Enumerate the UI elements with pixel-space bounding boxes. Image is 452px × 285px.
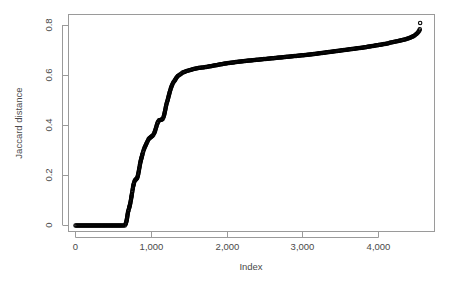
x-tick-label-1000: 1,000 bbox=[140, 241, 164, 252]
x-tick-label-0: 0 bbox=[73, 241, 78, 252]
y-tick-label-0: 0 bbox=[43, 222, 54, 227]
x-axis-title: Index bbox=[239, 261, 262, 272]
x-tick-label-3000: 3,000 bbox=[291, 241, 315, 252]
x-tick-label-2000: 2,000 bbox=[216, 241, 240, 252]
y-tick-label-0.6: 0.6 bbox=[43, 68, 54, 81]
y-tick-label-0.4: 0.4 bbox=[43, 118, 54, 131]
x-tick-label-4000: 4,000 bbox=[367, 241, 391, 252]
y-axis-title: Jaccard distance bbox=[13, 87, 24, 158]
jaccard-distance-scatter-chart: 0.8 0.6 0.4 0.2 0 0 1,000 2,000 3,000 4,… bbox=[0, 0, 452, 285]
y-tick-label-0.8: 0.8 bbox=[43, 18, 54, 31]
y-tick-label-0.2: 0.2 bbox=[43, 168, 54, 181]
